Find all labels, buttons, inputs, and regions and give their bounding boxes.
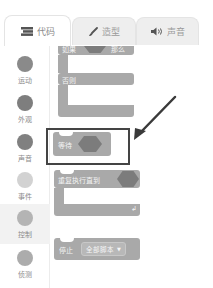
code-icon [21,27,33,36]
repeat-until-label: 重复执行直到 [58,175,100,185]
category-motion-dot [17,56,33,72]
category-looks-label: 外观 [18,114,32,124]
stop-option-value: 全部脚本 [86,244,114,254]
category-control-dot [17,210,33,226]
if-label: 如果 [62,46,76,54]
tab-sounds-label: 声音 [167,25,185,38]
category-control[interactable]: 控制 [0,204,50,244]
category-sensing[interactable]: 侦测 [0,244,50,284]
category-motion-label: 运动 [18,75,32,85]
loop-arrow-icon: ↲ [131,205,137,213]
category-sound[interactable]: 声音 [0,128,50,168]
category-sensing-label: 侦测 [18,269,32,279]
speaker-icon [151,27,163,36]
category-sound-dot [17,134,33,150]
category-menu: 运动 外观 声音 事件 控制 侦测 [0,46,50,288]
brush-icon [88,27,98,37]
block-palette: 如果 那么 否则 等待 重复执行直到 ↲ 停止 全部脚本 ▼ [51,46,213,288]
stop-option-dropdown[interactable]: 全部脚本 ▼ [81,242,126,256]
category-looks-dot [17,95,33,111]
then-label: 那么 [111,46,125,54]
category-events[interactable]: 事件 [0,166,50,206]
chevron-down-icon: ▼ [117,246,121,252]
category-sound-label: 声音 [18,153,32,163]
category-control-label: 控制 [18,229,32,239]
category-motion[interactable]: 运动 [0,50,50,90]
tab-code-label: 代码 [37,25,55,38]
category-sensing-dot [17,250,33,266]
tab-costumes-label: 造型 [102,25,120,38]
category-looks[interactable]: 外观 [0,89,50,129]
editor-tabs: 代码 造型 声音 [0,0,213,46]
else-label: 否则 [62,75,76,85]
tab-sounds[interactable]: 声音 [136,17,199,45]
tab-costumes[interactable]: 造型 [72,17,136,45]
stop-label: 停止 [59,245,73,255]
category-events-label: 事件 [18,191,32,201]
highlight-box [46,128,130,165]
category-events-dot [17,172,33,188]
tab-code[interactable]: 代码 [4,15,71,46]
